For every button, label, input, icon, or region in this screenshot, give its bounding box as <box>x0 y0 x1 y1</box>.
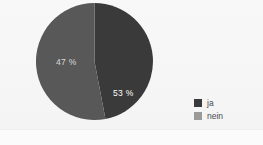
chart-legend: ja nein <box>194 98 223 121</box>
pie-chart-figure: 47 % 53 % ja nein <box>0 0 263 145</box>
legend-swatch-nein <box>194 112 202 120</box>
legend-item-ja[interactable]: ja <box>194 98 223 108</box>
pie-svg <box>36 3 153 120</box>
legend-label-nein: nein <box>207 111 223 121</box>
legend-swatch-ja <box>194 99 202 107</box>
legend-label-ja: ja <box>207 98 214 108</box>
pie-slice-ja[interactable] <box>95 3 153 119</box>
figure-bottom-rule <box>0 129 263 145</box>
legend-item-nein[interactable]: nein <box>194 111 223 121</box>
pie-graphic: 47 % 53 % <box>36 3 153 120</box>
